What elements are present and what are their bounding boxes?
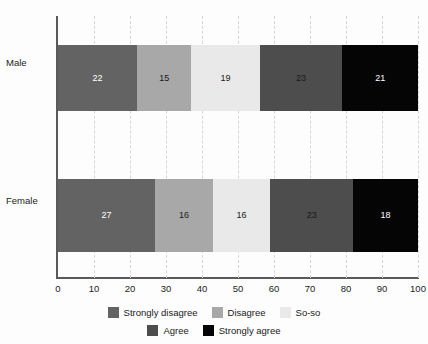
legend-swatch-icon <box>280 307 291 318</box>
legend-item[interactable]: Disagree <box>212 307 266 318</box>
bar-segment-value: 21 <box>375 74 385 83</box>
x-axis-tick-label: 70 <box>305 283 316 294</box>
bar-segment-value: 27 <box>102 211 112 220</box>
x-axis-tick-label: 90 <box>377 283 388 294</box>
bar-segment-value: 22 <box>93 74 103 83</box>
bar-segment-value: 23 <box>296 74 306 83</box>
x-axis-tick-labels: 0102030405060708090100 <box>58 283 418 299</box>
bar-segment[interactable]: 23 <box>260 45 343 111</box>
stacked-bar-chart: 2215192321 2716162318 Male Female 010203… <box>0 0 428 344</box>
bar-segment[interactable]: 22 <box>58 45 137 111</box>
legend-item[interactable]: Agree <box>147 325 188 336</box>
bar-segment-value: 15 <box>159 74 169 83</box>
legend-item[interactable]: Strongly agree <box>203 325 281 336</box>
legend-swatch-icon <box>147 325 158 336</box>
chart-legend: Strongly disagreeDisagreeSo-soAgreeStron… <box>0 303 428 339</box>
bar-segment-value: 16 <box>179 211 189 220</box>
bar-segment[interactable]: 15 <box>137 45 191 111</box>
bar-row-male: 2215192321 <box>58 45 418 111</box>
legend-row: Strongly disagreeDisagreeSo-so <box>0 303 428 321</box>
bar-segment[interactable]: 27 <box>58 179 155 252</box>
legend-label: Disagree <box>228 307 266 318</box>
legend-swatch-icon <box>203 325 214 336</box>
bar-segment-value: 23 <box>307 211 317 220</box>
x-axis-tick-label: 50 <box>233 283 244 294</box>
legend-row: AgreeStrongly agree <box>0 321 428 339</box>
plot-area: 2215192321 2716162318 <box>58 16 418 278</box>
x-axis-tick-label: 20 <box>125 283 136 294</box>
gridline <box>418 16 419 278</box>
bar-row-female: 2716162318 <box>58 179 418 252</box>
x-axis-tick-label: 30 <box>161 283 172 294</box>
legend-item[interactable]: Strongly disagree <box>108 307 198 318</box>
bar-segment[interactable]: 16 <box>213 179 271 252</box>
bar-segment[interactable]: 18 <box>353 179 418 252</box>
bar-segment[interactable]: 16 <box>155 179 213 252</box>
legend-label: Strongly agree <box>219 325 281 336</box>
x-axis-tick-label: 40 <box>197 283 208 294</box>
x-axis-tick-label: 0 <box>55 283 60 294</box>
bar-segment[interactable]: 21 <box>342 45 418 111</box>
legend-label: Strongly disagree <box>124 307 198 318</box>
legend-swatch-icon <box>212 307 223 318</box>
x-axis-tick-label: 80 <box>341 283 352 294</box>
bar-segment-value: 18 <box>381 211 391 220</box>
bar-segment[interactable]: 19 <box>191 45 259 111</box>
category-label-male: Male <box>0 57 52 68</box>
legend-label: So-so <box>296 307 321 318</box>
bar-segment[interactable]: 23 <box>270 179 353 252</box>
bar-segment-value: 19 <box>220 74 230 83</box>
x-axis-tick-label: 100 <box>410 283 426 294</box>
category-label-female: Female <box>0 195 52 206</box>
legend-swatch-icon <box>108 307 119 318</box>
bar-segment-value: 16 <box>237 211 247 220</box>
x-axis-tick-label: 60 <box>269 283 280 294</box>
legend-label: Agree <box>163 325 188 336</box>
x-axis-tick-label: 10 <box>89 283 100 294</box>
legend-item[interactable]: So-so <box>280 307 321 318</box>
